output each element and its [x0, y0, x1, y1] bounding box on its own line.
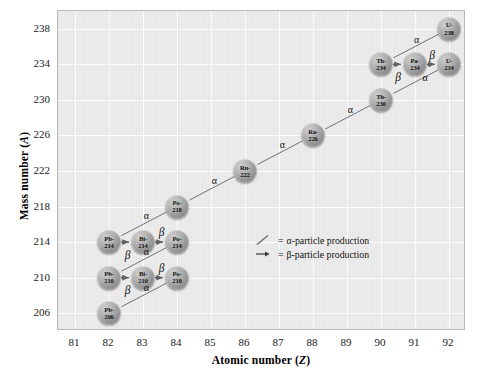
nuclide-mass-number: 234	[444, 65, 453, 72]
legend-beta-equals: =	[278, 249, 284, 260]
nuclide-mass-number: 214	[172, 242, 181, 249]
decay-label-alpha: α	[414, 33, 419, 44]
x-axis-title-prefix: Atomic number (	[212, 354, 299, 366]
nuclide-bubble-po210[interactable]: Po-210	[166, 266, 189, 289]
x-axis-title-suffix: )	[306, 354, 310, 366]
decay-series-figure: Mass number (A) Atomic number (Z) 238234…	[0, 0, 477, 378]
plot-panel: U-238Th-234Pa-234U-234Th-230Ra-226Rn-222…	[57, 10, 465, 330]
nuclide-mass-number: 210	[104, 278, 113, 285]
nuclide-mass-number: 214	[104, 242, 113, 249]
decay-label-beta: β	[159, 262, 165, 274]
x-axis-tick-label: 89	[332, 336, 360, 348]
y-axis-tick-label: 214	[16, 235, 50, 247]
decay-label-beta: β	[395, 71, 401, 83]
y-axis-tick-label: 222	[16, 164, 50, 176]
nuclide-bubble-pb210[interactable]: Pb-210	[98, 266, 121, 289]
decay-label-alpha: α	[423, 71, 428, 82]
nuclide-mass-number: 234	[376, 65, 385, 72]
y-axis-tick-label: 218	[16, 200, 50, 212]
nuclide-bubble-u238[interactable]: U-238	[438, 17, 461, 40]
decay-label-alpha: α	[144, 210, 149, 221]
nuclide-mass-number: 206	[104, 313, 113, 320]
x-axis-tick-label: 82	[94, 336, 122, 348]
nuclide-mass-number: 222	[240, 171, 249, 178]
nuclide-mass-number: 238	[444, 29, 453, 36]
x-axis-tick-label: 88	[298, 336, 326, 348]
y-axis-tick-label: 238	[16, 22, 50, 34]
decay-label-beta: β	[159, 226, 165, 238]
legend-item-beta: = β-particle production	[254, 247, 369, 261]
nuclide-mass-number: 226	[308, 136, 317, 143]
nuclide-bubble-ra226[interactable]: Ra-226	[302, 124, 325, 147]
y-axis-tick-label: 226	[16, 128, 50, 140]
nuclide-bubble-th230[interactable]: Th-230	[370, 88, 393, 111]
y-axis-tick-label: 206	[16, 306, 50, 318]
decay-label-beta: β	[429, 49, 435, 61]
legend: = α-particle production = β-particle pro…	[254, 233, 369, 261]
nuclide-bubble-po218[interactable]: Po-218	[166, 195, 189, 218]
alpha-line-icon	[254, 234, 274, 246]
x-axis-tick-label: 92	[434, 336, 462, 348]
legend-beta-text: β-particle production	[287, 249, 370, 260]
decay-label-beta: β	[125, 249, 131, 261]
nuclide-mass-number: 218	[172, 207, 181, 214]
y-axis-tick-label: 234	[16, 57, 50, 69]
decay-label-alpha: α	[212, 174, 217, 185]
decay-label-beta: β	[125, 284, 131, 296]
x-axis-tick-label: 84	[162, 336, 190, 348]
decay-label-alpha: α	[144, 246, 149, 257]
nuclide-bubble-pb214[interactable]: Pb-214	[98, 231, 121, 254]
nuclide-mass-number: 234	[410, 65, 419, 72]
nuclide-bubble-pb206[interactable]: Pb-206	[98, 302, 121, 325]
decay-label-alpha: α	[348, 103, 353, 114]
legend-alpha-equals: =	[278, 235, 284, 246]
nuclide-bubble-th234[interactable]: Th-234	[370, 53, 393, 76]
x-axis-title: Atomic number (Z)	[57, 354, 465, 366]
decay-label-alpha: α	[144, 281, 149, 292]
nuclide-mass-number: 210	[172, 278, 181, 285]
nuclide-bubble-u234[interactable]: U-234	[438, 53, 461, 76]
y-axis-tick-label: 230	[16, 93, 50, 105]
nuclide-mass-number: 230	[376, 100, 385, 107]
legend-alpha-text: α-particle production	[287, 235, 370, 246]
y-axis-title: Mass number (A)	[18, 96, 30, 256]
beta-arrow-icon	[254, 248, 274, 260]
x-axis-tick-label: 83	[128, 336, 156, 348]
x-axis-tick-label: 81	[60, 336, 88, 348]
y-axis-tick-label: 210	[16, 271, 50, 283]
nuclide-bubble-rn222[interactable]: Rn-222	[234, 160, 257, 183]
nuclide-bubble-po214[interactable]: Po-214	[166, 231, 189, 254]
legend-item-alpha: = α-particle production	[254, 233, 369, 247]
x-axis-tick-label: 87	[264, 336, 292, 348]
x-axis-tick-label: 85	[196, 336, 224, 348]
x-axis-tick-label: 91	[400, 336, 428, 348]
x-axis-tick-label: 90	[366, 336, 394, 348]
x-axis-tick-label: 86	[230, 336, 258, 348]
decay-label-alpha: α	[280, 139, 285, 150]
